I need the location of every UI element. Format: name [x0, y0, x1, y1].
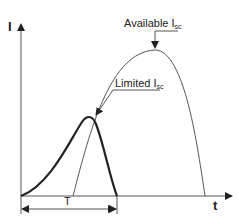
- available-isc-label: Available Isc: [124, 18, 182, 30]
- limited-isc-curve: [21, 117, 117, 196]
- t-arrow-left-icon: [21, 205, 29, 213]
- t-dimension-label: T: [64, 196, 71, 207]
- t-arrow-right-icon: [109, 205, 117, 213]
- available-isc-curve: [73, 50, 205, 196]
- x-axis-label: t: [213, 199, 217, 212]
- available-leader-line: [155, 31, 178, 48]
- limited-isc-label: Limited Isc: [115, 78, 164, 90]
- y-axis-label: I: [8, 20, 12, 33]
- diagram-canvas: [0, 0, 239, 224]
